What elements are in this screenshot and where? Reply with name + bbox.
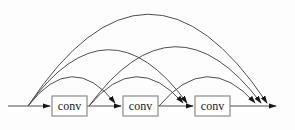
conv1-label: conv [58,99,81,113]
densenet-diagram: convconvconv [0,0,295,130]
conv3-label: conv [201,99,224,113]
diagram-canvas: convconvconv [0,0,295,130]
skip-connection-conv1-output-to-output [89,47,261,106]
skip-connection-input-to-output [28,14,267,106]
conv2-label: conv [129,99,152,113]
